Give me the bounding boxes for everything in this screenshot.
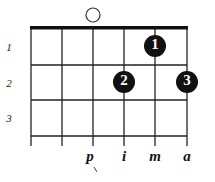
fret-number: 2 — [2, 77, 16, 89]
dot-label: 1 — [145, 36, 165, 53]
arrow-mark — [94, 167, 97, 172]
finger-label-p: p — [80, 148, 100, 165]
finger-label-i: i — [114, 148, 134, 165]
finger-label-a: a — [177, 148, 197, 165]
open-string-marker — [86, 8, 100, 22]
fret-number: 3 — [2, 112, 16, 124]
finger-label-m: m — [145, 148, 165, 165]
nut — [30, 26, 188, 30]
dot-label: 2 — [114, 72, 134, 89]
dot-label: 3 — [177, 72, 197, 89]
fret-number: 1 — [2, 41, 16, 53]
